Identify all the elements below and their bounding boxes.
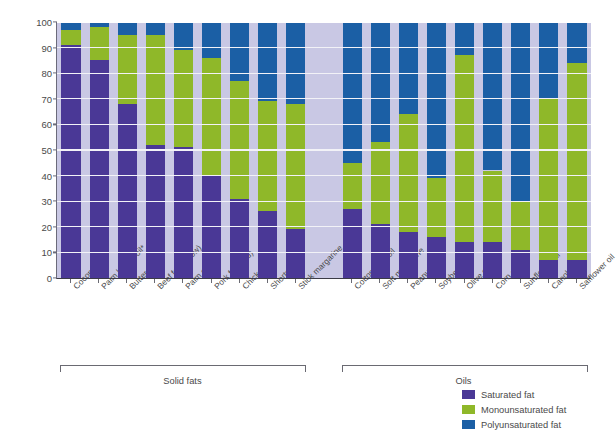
bar-soybean-oil xyxy=(427,22,446,278)
x-tick-mark xyxy=(98,279,99,283)
y-tick-label: 70 xyxy=(41,93,52,104)
bar-olive-oil xyxy=(455,22,474,278)
legend-swatch-icon xyxy=(462,390,475,399)
bar-segment-poly xyxy=(539,22,558,99)
bar-segment-poly xyxy=(343,22,362,163)
bar-segment-sat xyxy=(258,211,277,278)
bar-segment-poly xyxy=(511,22,530,201)
y-tick-label: 100 xyxy=(36,17,52,28)
bar-segment-sat xyxy=(427,237,446,278)
legend-swatch-icon xyxy=(462,405,475,414)
x-tick-mark xyxy=(295,279,296,283)
y-tick-mark xyxy=(53,277,57,278)
y-tick-mark xyxy=(53,124,57,125)
x-tick-mark xyxy=(435,279,436,283)
bar-segment-sat xyxy=(567,260,586,278)
bar-palm-kernel-oil xyxy=(90,22,109,278)
bar-chicken-fat xyxy=(230,22,249,278)
bar-segment-poly xyxy=(202,22,221,58)
bar-coconut-oil xyxy=(61,22,80,278)
legend-item: Saturated fat xyxy=(462,387,566,402)
bar-segment-sat xyxy=(455,242,474,278)
bar-segment-mono xyxy=(90,27,109,60)
y-tick-mark xyxy=(53,226,57,227)
bar-beef-fat-tallow xyxy=(146,22,165,278)
bar-segment-poly xyxy=(174,22,193,50)
bar-segment-mono xyxy=(567,63,586,260)
bar-pork-fat-lard xyxy=(202,22,221,278)
bar-safflower-oil xyxy=(567,22,586,278)
bar-canola-oil xyxy=(539,22,558,278)
bar-segment-sat xyxy=(146,145,165,278)
bar-segment-mono xyxy=(258,101,277,211)
bar-palm-oil xyxy=(174,22,193,278)
bar-segment-poly xyxy=(455,22,474,55)
y-tick-label: 0 xyxy=(47,273,52,284)
bar-segment-mono xyxy=(427,178,446,237)
y-tick-mark xyxy=(53,21,57,22)
bar-segment-poly xyxy=(427,22,446,178)
legend-item: Polyunsaturated fat xyxy=(462,417,566,432)
bar-segment-sat xyxy=(286,229,305,278)
legend-label: Polyunsaturated fat xyxy=(481,420,561,430)
y-tick-label: 80 xyxy=(41,68,52,79)
bar-segment-poly xyxy=(146,22,165,35)
group-bracket xyxy=(342,365,588,372)
bar-segment-sat xyxy=(118,104,137,278)
bar-segment-sat xyxy=(202,176,221,278)
bar-segment-poly xyxy=(258,22,277,101)
bar-segment-sat xyxy=(483,242,502,278)
bar-segment-sat xyxy=(61,45,80,278)
x-tick-mark xyxy=(379,279,380,283)
legend-label: Saturated fat xyxy=(481,390,534,400)
y-tick-label: 30 xyxy=(41,196,52,207)
y-tick-mark xyxy=(53,47,57,48)
plot-area: 0102030405060708090100 xyxy=(56,22,591,279)
bar-segment-mono xyxy=(371,142,390,224)
bar-segment-poly xyxy=(90,22,109,27)
bar-segment-poly xyxy=(483,22,502,170)
bar-segment-mono xyxy=(61,30,80,45)
x-tick-mark xyxy=(154,279,155,283)
bar-segment-mono xyxy=(286,104,305,229)
legend-label: Monounsaturated fat xyxy=(481,405,566,415)
legend-swatch-icon xyxy=(462,420,475,429)
bar-stick-margarine xyxy=(286,22,305,278)
x-tick-mark xyxy=(126,279,127,283)
bar-corn-oil xyxy=(483,22,502,278)
bar-cottonseed-oil xyxy=(343,22,362,278)
bar-peanut-oil xyxy=(399,22,418,278)
bar-segment-poly xyxy=(118,22,137,35)
bar-segment-sat xyxy=(343,209,362,278)
x-tick-mark xyxy=(70,279,71,283)
bar-segment-mono xyxy=(511,201,530,250)
bar-segment-sat xyxy=(174,147,193,278)
group-label: Solid fats xyxy=(163,376,201,386)
group-bracket xyxy=(60,365,306,372)
bar-segment-sat xyxy=(230,199,249,278)
bar-segment-mono xyxy=(343,163,362,209)
x-tick-mark xyxy=(182,279,183,283)
bar-segment-mono xyxy=(230,81,249,199)
bar-segment-sat xyxy=(511,250,530,278)
bar-soft-margarine xyxy=(371,22,390,278)
x-tick-mark xyxy=(548,279,549,283)
bar-segment-sat xyxy=(399,232,418,278)
x-tick-mark xyxy=(239,279,240,283)
y-tick-label: 20 xyxy=(41,221,52,232)
legend-item: Monounsaturated fat xyxy=(462,402,566,417)
bar-segment-poly xyxy=(399,22,418,114)
chart-legend: Saturated fatMonounsaturated fatPolyunsa… xyxy=(462,387,566,432)
bar-segment-mono xyxy=(202,58,221,176)
bar-segment-mono xyxy=(455,55,474,242)
y-tick-mark xyxy=(53,252,57,253)
bar-segment-poly xyxy=(286,22,305,104)
bar-segment-mono xyxy=(539,99,558,260)
y-tick-label: 10 xyxy=(41,247,52,258)
y-tick-mark xyxy=(53,149,57,150)
bar-segment-mono xyxy=(146,35,165,145)
x-tick-mark xyxy=(520,279,521,283)
bar-shortening xyxy=(258,22,277,278)
bar-segment-mono xyxy=(483,171,502,243)
